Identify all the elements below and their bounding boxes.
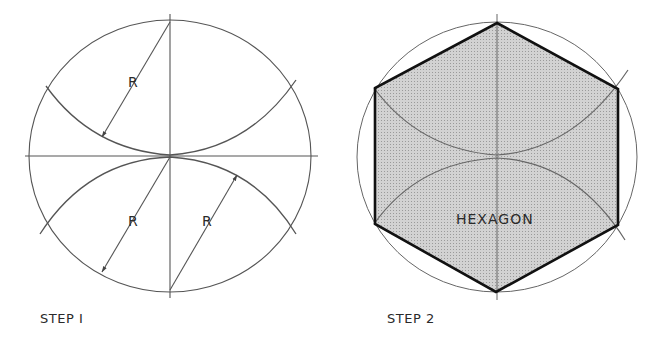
step1-figure — [25, 14, 318, 298]
step1-radius-label-lower-right: R — [202, 213, 212, 229]
hexagon-label: HEXAGON — [456, 211, 534, 227]
step1-radius-line-3 — [170, 175, 237, 290]
step1-upper-arc — [46, 80, 296, 155]
step2-figure — [357, 14, 637, 300]
step1-radius-label-upper: R — [128, 74, 138, 90]
step2-caption: STEP 2 — [387, 311, 435, 326]
step1-lower-arc — [40, 157, 296, 234]
step1-radius-label-lower-left: R — [128, 213, 138, 229]
hexagon-construction-diagram — [0, 0, 659, 344]
step1-caption: STEP I — [40, 311, 83, 326]
